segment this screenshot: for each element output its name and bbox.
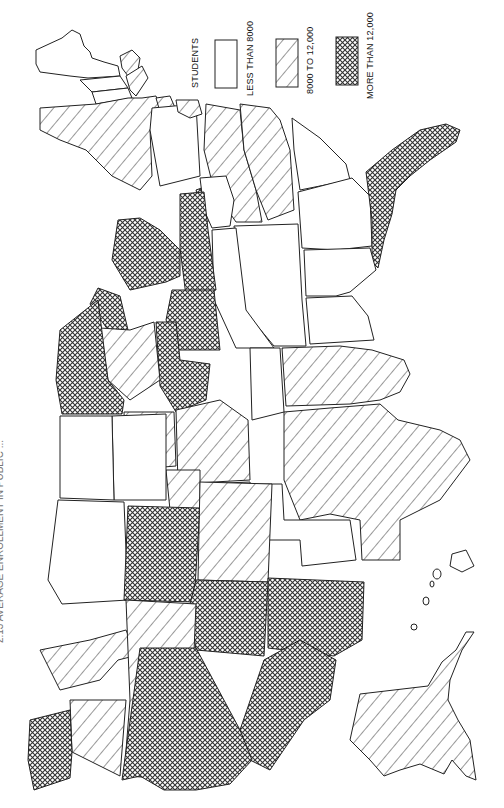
legend-swatch-less-than-8000 (215, 40, 237, 88)
state-oregon (70, 700, 126, 776)
state-michigan (90, 218, 180, 330)
legend-swatch-8000-12000 (276, 39, 298, 87)
state-new-mexico (268, 578, 364, 656)
state-mississippi (306, 296, 374, 344)
state-hawaii (411, 550, 474, 630)
legend-swatch-more-than-12000 (336, 37, 358, 85)
state-arkansas (250, 348, 284, 420)
state-colorado (198, 482, 272, 582)
state-south-dakota (112, 414, 166, 500)
legend-label-less-than-8000: LESS THAN 8000 (245, 21, 255, 96)
state-montana (48, 500, 128, 604)
state-utah (190, 580, 268, 656)
state-new-york (40, 96, 160, 190)
legend-heading: STUDENTS (190, 38, 200, 88)
state-north-dakota (60, 416, 114, 500)
legend: STUDENTS LESS THAN 8000 8000 TO 12,000 M… (190, 12, 375, 99)
legend-label-8000-12000: 8000 TO 12,000 (305, 26, 315, 94)
state-alaska (350, 632, 476, 780)
us-choropleth-map: STUDENTS LESS THAN 8000 8000 TO 12,000 M… (0, 0, 504, 808)
state-wyoming (124, 506, 200, 602)
states (28, 30, 476, 790)
state-alabama (304, 248, 376, 296)
state-arizona (240, 640, 336, 770)
state-maine (36, 30, 120, 78)
state-florida (366, 124, 460, 268)
state-california (122, 648, 252, 790)
state-louisiana (282, 346, 410, 406)
state-washington (28, 710, 72, 790)
state-georgia (298, 178, 372, 250)
legend-label-more-than-12000: MORE THAN 12,000 (365, 12, 375, 99)
state-south-carolina (292, 118, 350, 190)
